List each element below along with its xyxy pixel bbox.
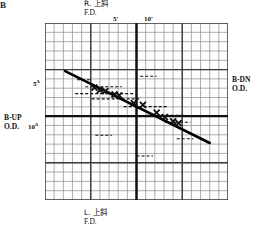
axis-label-top-line2: F.D. bbox=[84, 8, 108, 17]
tick-top-10: 10' bbox=[144, 15, 153, 23]
tick-left-5-sup: Δ bbox=[37, 79, 40, 84]
panel-label: B bbox=[0, 0, 268, 10]
scatter-plot-svg bbox=[45, 23, 228, 200]
tick-left-10-value: 10 bbox=[28, 123, 35, 131]
axis-label-right: B-DN O.D. bbox=[232, 75, 250, 93]
axis-label-bottom-line2: F.D. bbox=[84, 217, 107, 226]
axis-label-left: B-UP O.D. bbox=[4, 113, 22, 131]
figure-panel-b: R. 上斜 F.D. L. 上斜 F.D. B-DN O.D. B-UP O.D… bbox=[0, 0, 268, 231]
axis-label-right-line2: O.D. bbox=[232, 84, 250, 93]
axis-label-top: R. 上斜 F.D. bbox=[84, 0, 108, 17]
axis-label-bottom: L. 上斜 F.D. bbox=[84, 208, 107, 226]
tick-left-10-sup: Δ bbox=[35, 122, 38, 127]
axis-label-bottom-line1: L. 上斜 bbox=[84, 208, 107, 217]
plot-area bbox=[45, 23, 228, 200]
axis-label-right-line1: B-DN bbox=[232, 75, 250, 84]
tick-left-10: 10Δ bbox=[28, 122, 38, 131]
tick-top-5: 5' bbox=[113, 15, 118, 23]
axis-label-left-line1: B-UP bbox=[4, 113, 22, 122]
axis-label-top-line1: R. 上斜 bbox=[84, 0, 108, 8]
tick-left-5: 5Δ bbox=[33, 79, 40, 88]
axis-label-left-line2: O.D. bbox=[4, 122, 22, 131]
